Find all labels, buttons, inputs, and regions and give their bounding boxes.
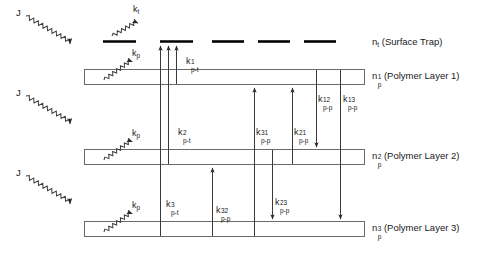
polymer-layer-2-box [85,150,365,165]
k-t-emission-label: kt [133,5,139,15]
n-p-3-paren: (Polymer Layer 3) [381,222,459,233]
n-p-1-sup: 1 [378,74,382,81]
k-p-t-3-base: k [166,199,171,209]
k-p-t-3-sub: p-t [171,210,179,217]
k-p-t-3-label: k3p-t [166,200,171,209]
polymer-layer-1-box [85,70,365,85]
k-p-sub-3: p [137,204,141,211]
n-p-1-base: n [372,70,377,81]
k-p-p-21-base: k [294,127,299,137]
polymer-layer-3-box [85,222,365,237]
k-p-p-32-sup: 32 [221,208,228,215]
k-p-p-31-label: k31p-p [256,128,261,137]
k-p-sub-1: p [137,52,141,59]
n-p-2-paren: (Polymer Layer 2) [381,150,459,161]
k-p-p-21-sub: p-p [299,138,308,145]
j-arrow-1 [25,14,72,43]
k-p-p-32-sub: p-p [221,216,230,223]
polymer-layer-2-label: n2p (Polymer Layer 2) [372,151,459,161]
n-p-3-sup: 3 [378,226,382,233]
n-p-3-base: n [372,222,377,233]
n-p-1-paren: (Polymer Layer 1) [381,70,459,81]
k-p-t-3-sup: 3 [171,202,175,209]
k-p-p-13-label: k13p-p [343,95,348,104]
k-p-p-32-label: k32p-p [216,206,221,215]
k-p-t-2-sub: p-t [183,138,191,145]
k-p-t-2-base: k [178,127,183,137]
k-p-p-12-sup: 12 [323,97,330,104]
k-t-sub: t [138,8,140,15]
n-p-1-sub: p [378,82,382,89]
n-p-2-sup: 2 [378,154,382,161]
kp-emission-arrow-2 [103,139,132,162]
k-p-t-2-label: k2p-t [178,128,183,137]
j-arrow-2 [25,94,72,123]
k-p-sub-2: p [137,132,141,139]
k-p-p-31-base: k [256,127,261,137]
polymer-layer-1-label: n1p (Polymer Layer 1) [372,71,459,81]
k-p-p-13-sub: p-p [348,105,357,112]
j-label-3: J [16,168,21,178]
k-p-emission-label-2: kp [132,129,140,139]
k-p-emission-label-1: kp [132,49,140,59]
incident-flux-arrows [25,14,72,203]
j-arrow-3 [25,174,72,203]
n-p-2-sub: p [378,162,382,169]
surface-trap-label: nt (Surface Trap) [372,37,442,48]
k-p-p-13-sup: 13 [348,97,355,104]
k-p-p-12-label: k12p-p [318,95,323,104]
n-t-paren: (Surface Trap) [379,36,442,47]
k-p-p-23-sup: 23 [280,200,287,207]
k-p-p-32-base: k [216,205,221,215]
k-p-emission-label-3: kp [132,201,140,211]
kt-emission-arrow [111,20,138,38]
j-label-1: J [16,8,21,18]
k-p-p-31-sub: p-p [261,138,270,145]
k-p-t-1-sub: p-t [191,67,199,74]
k-p-t-1-sup: 1 [191,59,195,66]
kp-emission-arrow-3 [103,211,132,234]
k-p-p-21-sup: 21 [299,130,306,137]
kp-emission-arrow-1 [103,59,132,82]
n-p-3-sub: p [378,234,382,241]
diagram-canvas: J J J kt kp kp kp k1p-t k2p-t k3p-t k31p… [0,0,497,255]
k-p-t-1-label: k1p-t [186,57,191,66]
k-p-p-13-base: k [343,94,348,104]
k-p-p-23-label: k23p-p [275,198,280,207]
k-p-t-2-sup: 2 [183,130,187,137]
k-p-p-23-base: k [275,197,280,207]
k-p-p-23-sub: p-p [280,208,289,215]
k-p-p-21-label: k21p-p [294,128,299,137]
n-p-2-base: n [372,150,377,161]
k-p-p-12-sub: p-p [323,105,332,112]
j-label-2: J [16,88,21,98]
polymer-layer-3-label: n3p (Polymer Layer 3) [372,223,459,233]
k-p-p-31-sup: 31 [261,130,268,137]
k-p-p-12-base: k [318,94,323,104]
k-p-t-1-base: k [186,56,191,66]
